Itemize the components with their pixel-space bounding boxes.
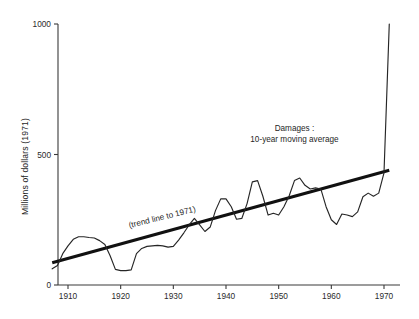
damages-annotation-line1: Damages : [275, 124, 315, 133]
y-axis-ticks: 05001000 [33, 19, 58, 290]
x-tick-label: 1940 [217, 291, 236, 301]
y-tick-label: 1000 [33, 19, 52, 29]
x-tick-label: 1930 [164, 291, 183, 301]
x-tick-label: 1970 [375, 291, 394, 301]
damages-chart-figure: Millions of dollars (1971) 05001000 1910… [0, 0, 419, 319]
chart-canvas: Millions of dollars (1971) 05001000 1910… [0, 0, 419, 319]
y-axis-title: Millions of dollars (1971) [20, 118, 30, 215]
y-tick-label: 500 [37, 150, 51, 160]
y-tick-label: 0 [46, 280, 51, 290]
damages-annotation-line2: 10-year moving average [250, 135, 339, 144]
trend-line-series [52, 170, 389, 263]
x-axis-ticks: 1910192019301940195019601970 [59, 285, 394, 301]
x-tick-label: 1910 [59, 291, 78, 301]
x-tick-label: 1920 [111, 291, 130, 301]
x-tick-label: 1960 [322, 291, 341, 301]
x-tick-label: 1950 [269, 291, 288, 301]
damages-moving-average-series [52, 24, 389, 271]
damages-annotation: Damages : 10-year moving average [250, 124, 339, 144]
